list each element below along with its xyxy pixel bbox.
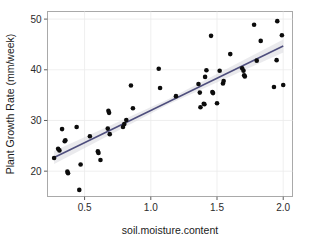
x-tick-label: 2.0 (276, 202, 290, 213)
data-point (78, 162, 83, 167)
data-point (198, 105, 203, 110)
data-point (66, 171, 71, 176)
data-point (52, 156, 57, 161)
data-point (57, 148, 62, 153)
data-point (131, 106, 136, 111)
data-point (252, 22, 257, 27)
y-tick-label: 40 (30, 64, 42, 75)
x-tick-label: 0.5 (78, 202, 92, 213)
data-point (281, 83, 286, 88)
data-point (196, 82, 201, 87)
data-point (124, 118, 129, 123)
data-point (105, 126, 110, 131)
data-point (274, 58, 279, 63)
data-point (197, 90, 202, 95)
data-point (203, 75, 208, 80)
chart-canvas: 0.51.01.52.0 20304050 soil.moisture.cont… (0, 0, 309, 240)
data-point (241, 69, 246, 74)
data-point (74, 125, 79, 130)
y-tick-labels: 20304050 (30, 14, 42, 177)
data-point (204, 68, 209, 73)
data-point (107, 111, 112, 116)
data-point (60, 127, 65, 132)
data-point (156, 66, 161, 71)
data-point (221, 79, 226, 84)
data-point (129, 83, 134, 88)
data-point (272, 85, 277, 90)
data-point (228, 52, 233, 57)
y-tick-label: 20 (30, 166, 42, 177)
data-point (280, 33, 285, 38)
x-tick-label: 1.5 (210, 202, 224, 213)
data-point (275, 19, 280, 24)
x-tick-labels: 0.51.01.52.0 (78, 202, 291, 213)
data-point (215, 101, 220, 106)
data-point (202, 102, 207, 107)
data-point (209, 34, 214, 39)
y-tick-label: 30 (30, 115, 42, 126)
data-point (158, 86, 163, 91)
data-point (217, 69, 222, 74)
data-point (96, 151, 101, 156)
data-point (258, 39, 263, 44)
y-tick-label: 50 (30, 14, 42, 25)
data-point (174, 94, 179, 99)
data-point (254, 58, 259, 63)
data-point (243, 74, 248, 79)
x-axis-title: soil.moisture.content (122, 224, 218, 236)
data-point (77, 188, 82, 193)
data-point (88, 134, 93, 139)
data-point (211, 91, 216, 96)
data-point (107, 132, 112, 137)
x-tick-label: 1.0 (144, 202, 158, 213)
y-axis-title: Plant Growth Rate (mm/week) (4, 34, 16, 175)
data-point (122, 122, 127, 127)
data-point (98, 158, 103, 163)
scatter-plot-figure: 0.51.01.52.0 20304050 soil.moisture.cont… (0, 0, 309, 240)
data-point (63, 138, 68, 143)
